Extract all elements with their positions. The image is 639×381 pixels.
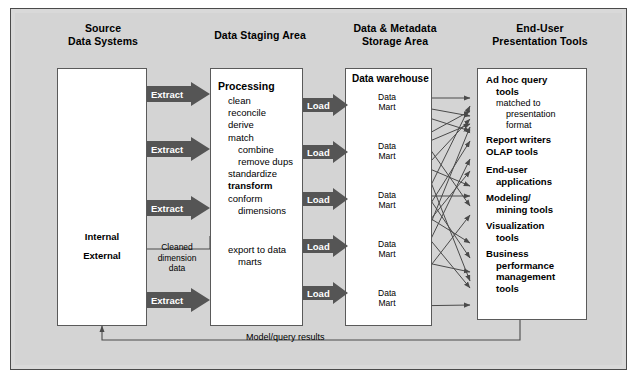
tool-olap: OLAP tools: [486, 146, 538, 158]
processing-step: derive: [218, 119, 293, 131]
data-mart-label: Data Mart: [361, 288, 413, 308]
load-arrow: Load: [303, 141, 348, 163]
processing-step: dimensions: [218, 205, 293, 217]
processing-step: reconcile: [218, 107, 293, 119]
load-arrow: Load: [303, 188, 348, 210]
processing-steps: clean reconcile derive match combine rem…: [218, 95, 293, 217]
tool-ad-hoc-query: Ad hoc query tools: [486, 74, 547, 97]
data-mart-label: Data Mart: [361, 141, 413, 161]
tool-end-user-applications: End-user applications: [486, 164, 552, 187]
extract-arrow: Extract: [147, 82, 210, 106]
column-header-enduser: End-User Presentation Tools: [470, 22, 610, 48]
extract-arrow: Extract: [147, 196, 210, 220]
internal-label: Internal: [52, 231, 152, 242]
tool-visualization: Visualization tools: [486, 220, 544, 243]
processing-step: transform: [218, 180, 293, 192]
load-arrow: Load: [303, 94, 348, 116]
source-data-systems-box: [57, 68, 147, 326]
processing-step: combine: [218, 144, 293, 156]
processing-step: remove dups: [218, 156, 293, 168]
load-arrow: Load: [303, 235, 348, 257]
processing-step: conform: [218, 193, 293, 205]
column-header-staging: Data Staging Area: [190, 29, 330, 42]
tool-modeling-mining: Modeling/ mining tools: [486, 192, 553, 215]
data-mart-label: Data Mart: [361, 92, 413, 112]
tool-business-performance: Business performance management tools: [486, 248, 555, 294]
content-layer: Source Data Systems Data Staging Area Da…: [0, 0, 639, 381]
processing-title: Processing: [218, 80, 275, 92]
extract-arrow: Extract: [147, 137, 210, 161]
cleaned-dimension-data-label: Cleaned dimension data: [146, 242, 208, 274]
diagram-root: Source Data Systems Data Staging Area Da…: [0, 0, 639, 381]
extract-arrow: Extract: [147, 288, 210, 312]
column-header-source: Source Data Systems: [43, 22, 163, 48]
data-mart-label: Data Mart: [361, 190, 413, 210]
tool-report-writers: Report writers: [486, 134, 551, 146]
column-header-storage: Data & Metadata Storage Area: [330, 22, 460, 48]
export-to-marts: export to data marts: [218, 244, 286, 268]
processing-step: match: [218, 132, 293, 144]
external-label: External: [52, 250, 152, 261]
tool-matched-note: matched to presentation format: [486, 98, 556, 131]
processing-step: clean: [218, 95, 293, 107]
data-mart-label: Data Mart: [361, 239, 413, 259]
load-arrow: Load: [303, 282, 348, 304]
processing-step: standardize: [218, 168, 293, 180]
model-query-results-label: Model/query results: [246, 332, 325, 342]
data-warehouse-title: Data warehouse: [352, 73, 429, 84]
